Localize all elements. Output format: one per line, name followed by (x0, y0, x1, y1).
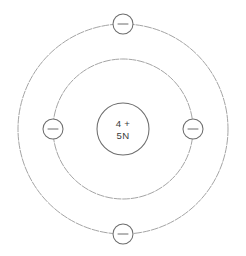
atom-diagram-canvas: 4 + 5N (0, 0, 246, 256)
atom-diagram: 4 + 5N (0, 0, 246, 256)
electron-inner-left (43, 119, 63, 139)
nucleus-neutron-label: 5N (117, 130, 130, 141)
electron-outer-top (113, 14, 133, 34)
electron-outer-bottom (113, 224, 133, 244)
nucleus-proton-label: 4 + (116, 118, 131, 129)
electron-inner-right (183, 119, 203, 139)
